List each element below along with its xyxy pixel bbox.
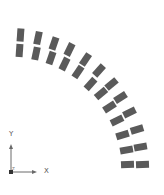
block-pair-6 xyxy=(84,63,106,91)
inner-block xyxy=(119,145,133,154)
inner-block xyxy=(110,115,125,127)
inner-block xyxy=(84,77,98,91)
outer-block xyxy=(104,77,118,91)
outer-block xyxy=(136,161,149,168)
block-pair-4 xyxy=(59,42,76,71)
outer-block xyxy=(122,107,137,119)
block-pair-10 xyxy=(115,124,144,140)
inner-block xyxy=(102,101,117,114)
inner-block xyxy=(16,44,24,57)
y-axis-arrowhead-icon xyxy=(9,144,13,149)
z-axis-label: Z xyxy=(12,167,15,171)
block-pair-7 xyxy=(94,77,119,100)
inner-block xyxy=(71,65,84,80)
outer-block xyxy=(33,31,43,45)
outer-block xyxy=(133,142,147,151)
block-pair-2 xyxy=(31,31,43,61)
inner-block xyxy=(115,130,129,140)
block-pair-11 xyxy=(119,142,147,154)
y-axis-label: Y xyxy=(9,131,13,138)
arc-block-diagram xyxy=(0,0,164,195)
outer-block xyxy=(64,42,76,57)
block-pair-12 xyxy=(121,161,149,168)
outer-block xyxy=(92,63,106,77)
outer-block xyxy=(113,91,128,104)
inner-block xyxy=(121,161,134,168)
x-axis-arrowhead-icon xyxy=(32,170,37,174)
inner-block xyxy=(59,57,71,72)
block-pair-9 xyxy=(110,107,137,127)
block-pair-8 xyxy=(102,91,128,113)
inner-block xyxy=(94,87,108,101)
inner-block xyxy=(46,51,57,66)
block-arc-group xyxy=(16,28,150,168)
outer-block xyxy=(17,28,25,41)
x-axis-label: X xyxy=(44,168,49,175)
outer-block xyxy=(130,124,144,134)
inner-block xyxy=(31,46,41,60)
outer-block xyxy=(49,36,60,51)
outer-block xyxy=(79,52,92,67)
block-pair-3 xyxy=(46,36,60,65)
block-pair-5 xyxy=(71,52,92,79)
block-pair-1 xyxy=(16,28,25,57)
